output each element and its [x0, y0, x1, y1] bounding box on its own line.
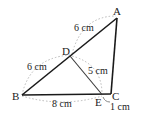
point-a-label: A: [113, 5, 121, 17]
segment-ac: [111, 18, 117, 94]
point-d-label: D: [62, 45, 70, 57]
length-be-label: 8 cm: [52, 98, 72, 109]
point-e-label: E: [95, 96, 102, 108]
arc-ec: [103, 97, 110, 102]
triangle-diagram: A B C D E 6 cm 6 cm 5 cm 8 cm 1 cm: [0, 0, 144, 121]
length-db-label: 6 cm: [27, 61, 47, 72]
length-ad-label: 6 cm: [74, 22, 94, 33]
point-b-label: B: [12, 90, 19, 102]
segment-bc: [22, 94, 111, 95]
length-de-label: 5 cm: [88, 65, 108, 76]
length-ec-label: 1 cm: [110, 101, 130, 112]
